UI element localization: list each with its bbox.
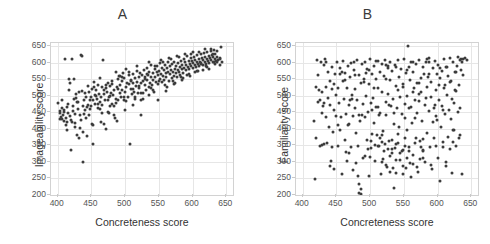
scatter-point — [321, 105, 324, 108]
scatter-point — [70, 57, 73, 60]
scatter-point — [404, 72, 407, 75]
scatter-point — [369, 102, 372, 105]
scatter-point — [404, 166, 407, 169]
scatter-point — [58, 118, 61, 121]
x-axis-tick-label: 450 — [83, 198, 97, 208]
scatter-point — [95, 88, 98, 91]
scatter-point — [428, 72, 431, 75]
scatter-point — [369, 156, 372, 159]
scatter-point — [326, 71, 329, 74]
scatter-point — [145, 73, 148, 76]
scatter-point — [350, 94, 353, 97]
scatter-point — [62, 109, 65, 112]
scatter-point — [116, 119, 119, 122]
scatter-point — [437, 83, 440, 86]
scatter-point — [417, 58, 420, 61]
scatter-point — [101, 104, 104, 107]
scatter-point — [426, 131, 429, 134]
scatter-point — [155, 71, 158, 74]
scatter-point — [369, 57, 372, 60]
scatter-point — [126, 95, 129, 98]
scatter-point — [355, 58, 358, 61]
x-axis-tick-mark — [369, 194, 370, 197]
panel-b-x-axis-label: Concreteness score — [295, 216, 479, 228]
y-axis-tick-mark — [292, 128, 295, 129]
scatter-point — [445, 94, 448, 97]
scatter-point — [357, 144, 360, 147]
scatter-point — [373, 65, 376, 68]
scatter-point — [315, 59, 318, 62]
scatter-point — [85, 135, 88, 138]
scatter-point — [421, 156, 424, 159]
scatter-point — [105, 90, 108, 93]
x-axis-tick-mark — [335, 194, 336, 197]
scatter-point — [68, 81, 71, 84]
y-axis-tick-mark — [47, 78, 50, 79]
scatter-point — [147, 60, 150, 63]
scatter-point — [344, 72, 347, 75]
scatter-point — [64, 124, 67, 127]
scatter-point — [415, 112, 418, 115]
scatter-point — [72, 104, 75, 107]
scatter-point — [373, 160, 376, 163]
scatter-point — [420, 90, 423, 93]
scatter-point — [425, 57, 428, 60]
scatter-point — [433, 137, 436, 140]
scatter-point — [436, 156, 439, 159]
scatter-point — [338, 101, 341, 104]
scatter-point — [395, 85, 398, 88]
scatter-point — [419, 145, 422, 148]
scatter-point — [377, 114, 380, 117]
scatter-point — [333, 167, 336, 170]
scatter-point — [381, 129, 384, 132]
scatter-point — [213, 61, 216, 64]
scatter-point — [334, 72, 337, 75]
scatter-point — [125, 100, 128, 103]
scatter-point — [394, 66, 397, 69]
scatter-point — [139, 99, 142, 102]
scatter-point — [384, 77, 387, 80]
scatter-point — [365, 72, 368, 75]
scatter-point — [383, 143, 386, 146]
scatter-point — [377, 106, 380, 109]
y-axis-tick-mark — [292, 177, 295, 178]
scatter-point — [401, 172, 404, 175]
scatter-point — [132, 104, 135, 107]
scatter-point — [443, 83, 446, 86]
scatter-point — [348, 76, 351, 79]
scatter-point — [64, 57, 67, 60]
scatter-point — [354, 87, 357, 90]
x-axis-tick-label: 600 — [184, 198, 198, 208]
scatter-point — [113, 105, 116, 108]
panel-a-plot-area — [50, 42, 234, 196]
scatter-point — [442, 57, 445, 60]
scatter-point — [448, 81, 451, 84]
scatter-point — [435, 144, 438, 147]
scatter-point — [438, 180, 441, 183]
scatter-point — [396, 59, 399, 62]
scatter-point — [363, 77, 366, 80]
scatter-point — [172, 82, 175, 85]
scatter-point — [368, 82, 371, 85]
scatter-point — [91, 123, 94, 126]
scatter-point — [313, 119, 316, 122]
scatter-point — [373, 87, 376, 90]
x-axis-tick-mark — [192, 194, 193, 197]
scatter-point — [349, 145, 352, 148]
scatter-point — [116, 78, 119, 81]
scatter-point — [76, 133, 79, 136]
scatter-point — [81, 105, 84, 108]
scatter-point — [445, 160, 448, 163]
scatter-point — [385, 163, 388, 166]
x-axis-tick-label: 400 — [295, 198, 309, 208]
scatter-point — [429, 163, 432, 166]
scatter-point — [85, 95, 88, 98]
scatter-point — [176, 54, 179, 57]
scatter-point — [107, 112, 110, 115]
scatter-point — [354, 73, 357, 76]
y-axis-tick-mark — [47, 194, 50, 195]
scatter-point — [346, 159, 349, 162]
scatter-point — [408, 107, 411, 110]
x-axis-tick-label: 550 — [151, 198, 165, 208]
scatter-point — [330, 65, 333, 68]
